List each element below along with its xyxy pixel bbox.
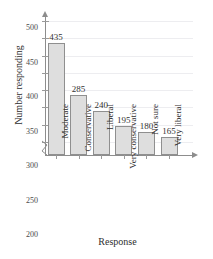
y-axis-title: Number responding [12, 25, 26, 145]
plot-area: 150200250300350400450500 435285240195180… [45, 14, 195, 156]
category-label: Moderate [60, 104, 71, 176]
y-axis-arrow-icon [42, 11, 48, 17]
x-tick-mark [101, 155, 102, 159]
x-tick-mark [56, 155, 57, 159]
bar-chart: Number responding 1502002503003504004505… [0, 0, 213, 259]
chart-title-cropped [0, 0, 213, 9]
y-tick-label: 200 [26, 231, 38, 239]
x-tick-mark [79, 155, 80, 159]
category-label: Very liberal [173, 104, 184, 176]
gridline [45, 38, 193, 39]
x-axis-arrow-icon [192, 152, 198, 158]
x-axis-title: Response [40, 236, 195, 247]
category-label: Very conservative [128, 104, 139, 176]
axis-break-icon [38, 140, 52, 156]
y-tick-label: 250 [26, 197, 38, 205]
gridline [45, 56, 193, 57]
category-label: Not sure [150, 104, 161, 176]
gridline [45, 73, 193, 74]
y-tick-mark: 450 [42, 38, 49, 39]
gridline [45, 90, 193, 91]
y-axis-line [45, 16, 46, 156]
x-tick-mark [124, 155, 125, 159]
x-tick-mark [169, 155, 170, 159]
category-label: Conservative [83, 104, 94, 176]
x-tick-mark [146, 155, 147, 159]
category-label: Liberal [105, 104, 116, 176]
y-tick-label: 300 [26, 162, 38, 170]
y-tick-label: 350 [26, 128, 38, 136]
y-tick-mark: 500 [42, 21, 49, 22]
y-tick-label: 500 [26, 24, 38, 32]
gridline [45, 21, 193, 22]
bar-value-label: 285 [72, 85, 86, 94]
bar-value-label: 435 [49, 33, 63, 42]
y-tick-label: 450 [26, 59, 38, 67]
y-tick-label: 400 [26, 93, 38, 101]
